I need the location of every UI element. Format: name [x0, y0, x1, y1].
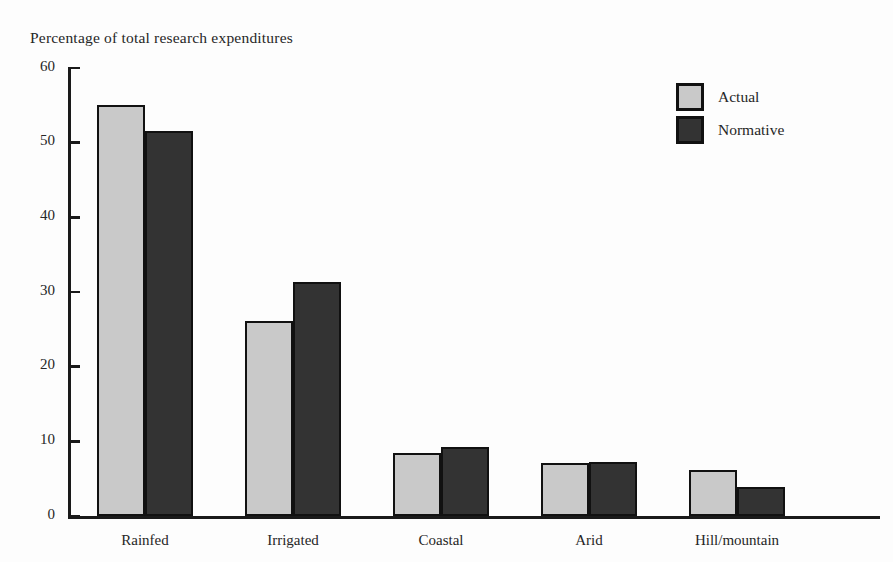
page-title: Percentage of total research expenditure…	[30, 28, 293, 48]
x-axis-label-irrigated: Irrigated	[267, 531, 319, 550]
y-tick-mark	[68, 216, 80, 219]
y-tick: 40	[68, 216, 80, 219]
bar-actual-rainfed	[97, 105, 145, 516]
y-tick: 50	[68, 141, 80, 144]
y-tick: 30	[68, 291, 80, 294]
y-tick-mark	[68, 440, 80, 443]
legend-label-normative: Normative	[718, 121, 784, 139]
y-tick-label: 40	[40, 206, 55, 224]
legend-label-actual: Actual	[718, 88, 759, 106]
legend: ActualNormative	[676, 80, 784, 146]
x-axis-label-rainfed: Rainfed	[121, 531, 168, 550]
y-tick-mark	[68, 141, 80, 144]
y-tick-label: 20	[40, 355, 55, 373]
bar-actual-irrigated	[245, 321, 293, 516]
y-tick: 20	[68, 365, 80, 368]
y-tick-label: 30	[40, 281, 55, 299]
y-tick-label: 10	[40, 430, 55, 448]
x-axis-label-arid: Arid	[575, 531, 603, 550]
y-tick: 10	[68, 440, 80, 443]
legend-item-actual: Actual	[676, 80, 784, 113]
chart-page: Percentage of total research expenditure…	[0, 0, 893, 562]
y-tick-mark	[68, 365, 80, 368]
y-tick: 0	[68, 515, 80, 518]
x-axis-line	[68, 516, 880, 519]
legend-swatch-actual	[676, 83, 704, 111]
bar-normative-rainfed	[145, 131, 193, 516]
bar-normative-arid	[589, 462, 637, 516]
bar-actual-coastal	[393, 453, 441, 516]
x-axis-label-coastal: Coastal	[419, 531, 464, 550]
y-tick-mark	[68, 291, 80, 294]
x-axis-label-hill-mountain: Hill/mountain	[695, 531, 779, 550]
y-tick-mark	[68, 67, 80, 70]
bar-normative-coastal	[441, 447, 489, 516]
y-tick: 60	[68, 67, 80, 70]
bar-actual-hill-mountain	[689, 470, 737, 516]
legend-item-normative: Normative	[676, 113, 784, 146]
bar-normative-irrigated	[293, 282, 341, 516]
bar-normative-hill-mountain	[737, 487, 785, 516]
y-tick-mark	[68, 515, 80, 518]
y-tick-label: 0	[48, 505, 56, 523]
y-tick-label: 60	[40, 57, 55, 75]
bar-actual-arid	[541, 463, 589, 516]
legend-swatch-normative	[676, 116, 704, 144]
y-tick-label: 50	[40, 131, 55, 149]
